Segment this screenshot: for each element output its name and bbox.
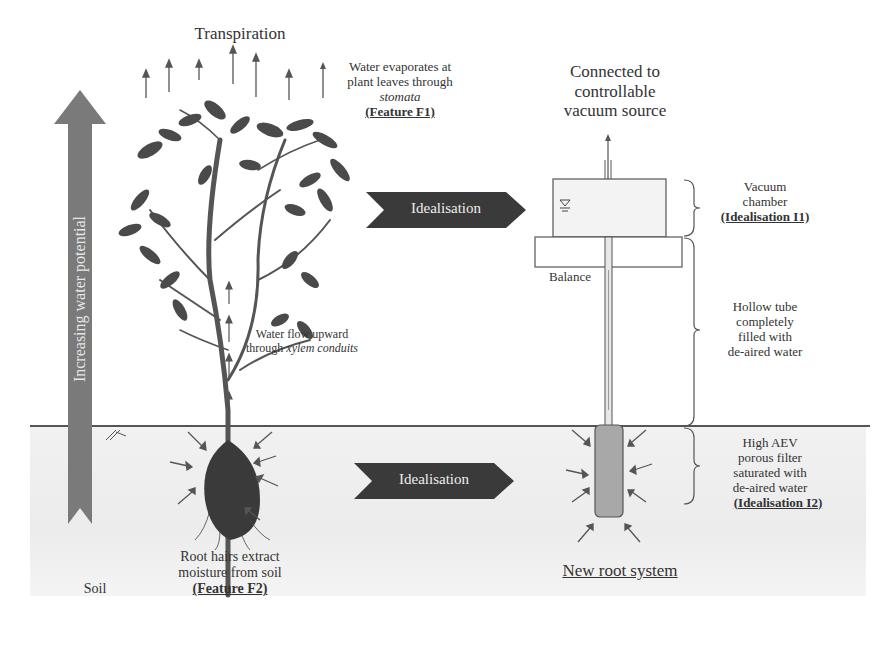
hollow-tube-text: Hollow tube completely filled with de-ai… xyxy=(705,300,825,360)
new-root-system-label: New root system xyxy=(540,561,700,581)
porous-filter xyxy=(595,425,623,517)
idealisation-bottom-label: Idealisation xyxy=(354,471,514,488)
vacuum-chamber-line1: Vacuum xyxy=(695,180,835,195)
feature-f1-line3: stomata xyxy=(330,90,470,105)
hollow-tube-line3: filled with xyxy=(705,330,825,345)
balance-label: Balance xyxy=(530,270,610,285)
xylem-line2-italic: xylem conduits xyxy=(286,341,358,355)
porous-filter-text: High AEV porous filter saturated with de… xyxy=(705,436,835,511)
potential-label: Increasing water potential xyxy=(71,149,89,449)
hollow-tube-line2: completely xyxy=(705,315,825,330)
feature-f2-label: (Feature F2) xyxy=(160,581,300,597)
xylem-line1: Water flow upward xyxy=(232,328,372,342)
vacuum-source-line3: vacuum source xyxy=(545,101,685,121)
transpiration-title: Transpiration xyxy=(160,24,320,44)
feature-f1-text: Water evaporates at plant leaves through… xyxy=(330,60,470,120)
feature-f1-line1: Water evaporates at xyxy=(330,60,470,75)
feature-f2-line2: moisture from soil xyxy=(160,565,300,581)
porous-filter-line4: de-aired water xyxy=(705,481,835,496)
idealisation-arrow-bottom: Idealisation xyxy=(354,463,514,499)
feature-f2-line1: Root hairs extract xyxy=(160,549,300,565)
vacuum-chamber-label: (Idealisation I1) xyxy=(695,210,835,225)
xylem-line2: through xylem conduits xyxy=(232,342,372,356)
feature-f1-label: (Feature F1) xyxy=(330,105,470,120)
vacuum-source-line2: controllable xyxy=(545,82,685,102)
root-extraction-arrows xyxy=(160,430,300,530)
hollow-tube-line1: Hollow tube xyxy=(705,300,825,315)
vacuum-source-line1: Connected to xyxy=(545,62,685,82)
porous-filter-label: (Idealisation I2) xyxy=(721,496,835,511)
porous-filter-line2: porous filter xyxy=(705,451,835,466)
xylem-text: Water flow upward through xylem conduits xyxy=(232,328,372,356)
hollow-tube-line4: de-aired water xyxy=(705,345,825,360)
vacuum-source-text: Connected to controllable vacuum source xyxy=(545,62,685,121)
xylem-line2-plain: through xyxy=(246,341,286,355)
vacuum-chamber-line2: chamber xyxy=(695,195,835,210)
feature-f2-text: Root hairs extract moisture from soil (F… xyxy=(160,549,300,597)
porous-filter-line1: High AEV xyxy=(705,436,835,451)
feature-f1-line2: plant leaves through xyxy=(330,75,470,90)
vacuum-chamber-text: Vacuum chamber (Idealisation I1) xyxy=(695,180,835,225)
porous-filter-line3: saturated with xyxy=(705,466,835,481)
